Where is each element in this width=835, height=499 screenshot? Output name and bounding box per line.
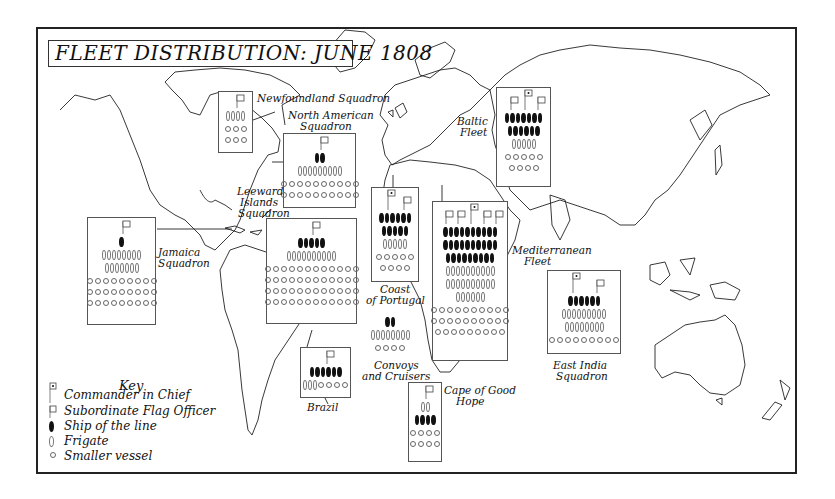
ship-of-line-icon (468, 253, 473, 263)
ship-of-line-icon (309, 238, 314, 248)
frigate-icon (562, 309, 566, 319)
ship-row (224, 137, 247, 143)
smaller-vessel-icon (305, 181, 311, 187)
ship-row (431, 318, 510, 324)
ship-row (410, 430, 441, 436)
ship-of-line-icon (568, 296, 573, 306)
ship-row (376, 254, 415, 260)
ship-of-line-icon (493, 240, 498, 250)
ship-of-line-icon (519, 126, 524, 136)
ship-of-line-icon (532, 113, 537, 123)
smaller-vessel-icon (289, 288, 295, 294)
smaller-vessel-icon (345, 181, 351, 187)
ship-row (549, 337, 620, 343)
ship-of-line-icon (390, 213, 395, 223)
smaller-vessel-icon (525, 165, 531, 171)
ship-row (456, 292, 485, 302)
frigate-icon (105, 263, 109, 273)
ship-row (446, 266, 495, 276)
smaller-vessel-icon (281, 288, 287, 294)
ship-of-line-icon (382, 226, 387, 236)
frigate-icon (570, 322, 574, 332)
smaller-vessel-icon (410, 430, 416, 436)
smaller-vessel-icon (455, 318, 461, 324)
smaller-vessel-icon (447, 318, 453, 324)
smaller-vessel-icon (305, 277, 311, 283)
ship-row (86, 289, 157, 295)
frigate-icon (451, 266, 455, 276)
frigate-icon (312, 251, 316, 261)
smaller-vessel-icon (533, 165, 539, 171)
ship-of-line-icon (516, 113, 521, 123)
smaller-vessel-icon (463, 318, 469, 324)
smaller-vessel-icon (455, 307, 461, 313)
smaller-vessel-icon (439, 318, 445, 324)
smaller-vessel-icon (49, 452, 56, 458)
frigate-icon (565, 322, 569, 332)
smaller-vessel-icon (459, 329, 465, 335)
smaller-vessel-icon (439, 307, 445, 313)
smaller-vessel-icon (87, 289, 93, 295)
frigate-icon (486, 266, 490, 276)
smaller-vessel-icon (447, 307, 453, 313)
smaller-vessel-icon (329, 277, 335, 283)
frigate-icon (303, 166, 307, 176)
ship-of-line-icon (579, 296, 584, 306)
smaller-vessel-icon (505, 154, 511, 160)
flag-officers (301, 348, 350, 364)
frigate-icon (323, 166, 327, 176)
smaller-vessel-icon (353, 299, 359, 305)
smaller-vessel-icon (479, 307, 485, 313)
smaller-vessel-icon (127, 278, 133, 284)
ship-of-line-icon (521, 113, 526, 123)
frigate-icon (476, 266, 480, 276)
frigate-icon (426, 402, 430, 412)
frigate-icon (287, 251, 291, 261)
frigate-icon (391, 330, 395, 340)
frigate-icon (532, 139, 536, 149)
ship-of-line-icon (585, 296, 590, 306)
smaller-vessel-icon (313, 288, 319, 294)
smaller-vessel-icon (313, 266, 319, 272)
smaller-vessel-icon (499, 329, 505, 335)
smaller-vessel-icon (289, 181, 295, 187)
smaller-vessel-icon (613, 337, 619, 343)
key-item-frigate: Frigate (64, 434, 109, 448)
ship-row (287, 251, 336, 261)
smaller-vessel-icon (503, 307, 509, 313)
smaller-vessel-icon (95, 300, 101, 306)
frigate-icon (461, 279, 465, 289)
smaller-vessel-icon (353, 192, 359, 198)
ship-of-line-icon (457, 253, 462, 263)
smaller-vessel-icon (491, 329, 497, 335)
smaller-vessel-icon (273, 299, 279, 305)
ship-of-line-icon (487, 227, 492, 237)
smaller-vessel-icon (95, 289, 101, 295)
key-item-ship-of-line: Ship of the line (64, 419, 157, 433)
smaller-vessel-icon (321, 299, 327, 305)
ship-of-line-icon (493, 227, 498, 237)
ship-row (102, 250, 141, 260)
smaller-vessel-icon (392, 254, 398, 260)
frigate-icon (132, 250, 136, 260)
smaller-vessel-icon (549, 337, 555, 343)
smaller-vessel-icon (399, 345, 405, 351)
smaller-vessel-icon (151, 289, 157, 295)
ship-of-line-icon (490, 253, 495, 263)
smaller-vessel-icon (135, 300, 141, 306)
ship-row (380, 265, 411, 271)
ship-of-line-icon (590, 296, 595, 306)
ship-of-line-icon (310, 367, 315, 377)
smaller-vessel-icon (495, 318, 501, 324)
frigate-icon (297, 251, 301, 261)
smaller-vessel-icon (305, 266, 311, 272)
frigate-icon (110, 263, 114, 273)
smaller-vessel-icon (487, 318, 493, 324)
ship-row (226, 111, 245, 121)
smaller-vessel-icon (467, 329, 473, 335)
key-item-subordinate: Subordinate Flag Officer (64, 404, 215, 418)
label-baltic-2: Fleet (460, 127, 487, 138)
smaller-vessel-icon (521, 154, 527, 160)
ship-row (410, 441, 441, 447)
frigate-icon (406, 330, 410, 340)
